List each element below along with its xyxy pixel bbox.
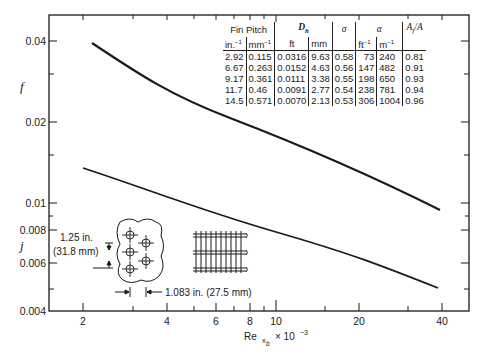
- y-tick-label: 0.04: [26, 35, 47, 47]
- table-row: 6.670.2630.01524.630.561474820.91: [223, 62, 426, 73]
- unit-sigma: [332, 37, 356, 51]
- unit-in: in.−1: [223, 37, 246, 51]
- y-tick-label: 0.01: [26, 197, 47, 209]
- svg-text:b: b: [266, 340, 270, 347]
- header-af-a: Af/A: [403, 22, 426, 37]
- y-tick-label: 0.006: [20, 257, 46, 269]
- svg-text:Re: Re: [244, 331, 257, 342]
- unit-mm-dh: mm: [309, 37, 333, 51]
- tube-pitch-mm-label: (31.8 mm): [53, 246, 99, 257]
- unit-ft-inv: ft−1: [356, 37, 377, 51]
- y-axis-label-f: f: [20, 79, 26, 94]
- x-tick-label: 8: [247, 315, 253, 327]
- x-tick-label: 2: [80, 315, 86, 327]
- tube-pitch-in-label: 1.25 in.: [60, 232, 93, 243]
- svg-text:× 10: × 10: [275, 331, 295, 342]
- header-alpha: α: [356, 22, 403, 37]
- x-tick-label: 10: [270, 315, 282, 327]
- j-curve: [83, 168, 438, 288]
- fin-grid-diagram: [193, 231, 248, 273]
- x-axis-label: Re x b × 10 −3: [244, 329, 308, 347]
- y-tick-label: 0.02: [26, 116, 47, 128]
- table-row: 2.920.1150.03169.630.58732400.81: [223, 51, 426, 63]
- unit-af: [403, 37, 426, 51]
- y-tick-label: 0.008: [20, 224, 46, 236]
- unit-ft: ft: [275, 37, 309, 51]
- header-sigma: σ: [332, 22, 356, 37]
- header-dh: Dh: [275, 22, 333, 37]
- unit-mm: mm−1: [246, 37, 275, 51]
- y-tick-label: 0.004: [20, 305, 46, 317]
- x-tick-label: 4: [164, 315, 170, 327]
- unit-m-inv: m−1: [377, 37, 403, 51]
- x-tick-label: 20: [353, 315, 365, 327]
- x-tick-label: 40: [436, 315, 448, 327]
- table-row: 11.70.460.00912.770.542387810.94: [223, 84, 426, 95]
- row-pitch-label: 1.083 in. (27.5 mm): [165, 287, 252, 298]
- y-axis-label-j: j: [18, 238, 24, 253]
- x-tick-label: 6: [213, 315, 219, 327]
- tube-arrangement-diagram: [93, 219, 164, 297]
- svg-text:−3: −3: [300, 329, 308, 336]
- table-row: 9.170.3610.01113.380.551986500.93: [223, 73, 426, 84]
- fin-geometry-table: Fin Pitch Dh σ α Af/A in.−1 mm−1 ft mm f…: [223, 22, 426, 106]
- header-fin-pitch: Fin Pitch: [223, 22, 275, 37]
- table-row: 14.50.5710.00702.130.5330610040.96: [223, 95, 426, 106]
